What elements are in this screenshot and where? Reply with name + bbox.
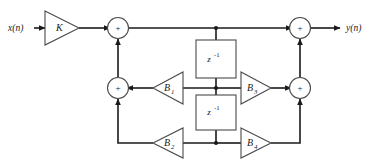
gain-b3-subscript: 3	[253, 88, 258, 95]
gain-triangle-b2: B 2	[153, 128, 183, 158]
wire-gain-b4-to-sum-bottom-right	[271, 99, 300, 143]
adder-plus-symbol: +	[297, 83, 302, 93]
adder-plus-symbol: +	[115, 23, 120, 33]
gain-b2-subscript: 2	[171, 143, 175, 150]
gain-triangle-k: K	[45, 11, 79, 45]
gain-b4-label: B	[247, 137, 253, 148]
input-signal-label: x(n)	[7, 23, 23, 34]
adder-plus-symbol: +	[297, 23, 302, 33]
junction-tap-middle	[214, 86, 218, 90]
gain-b3-label: B	[247, 82, 253, 93]
gain-b1-label: B	[164, 82, 170, 93]
gain-b1-subscript: 1	[171, 88, 174, 95]
delay-exponent-label: -1	[214, 51, 220, 58]
gain-b4-subscript: 4	[254, 143, 258, 150]
delay-base-label: z	[206, 54, 211, 64]
delay-exponent-label: -1	[214, 104, 220, 111]
adder-sum-bottom-left: +	[108, 78, 129, 99]
junction-tap-top	[214, 26, 218, 30]
signal-flow-diagram: + + + + z -1 z -1 K	[0, 0, 378, 167]
delay-block-lower: z -1	[196, 95, 236, 130]
diagram-canvas: + + + + z -1 z -1 K	[0, 0, 378, 167]
adder-plus-symbol: +	[115, 83, 120, 93]
delay-base-label: z	[206, 107, 211, 117]
junction-tap-bottom	[214, 141, 218, 145]
adder-sum-top-left: +	[108, 18, 129, 39]
gain-b2-label: B	[164, 137, 170, 148]
gain-triangle-b1: B 1	[153, 72, 183, 104]
gain-triangle-b3: B 3	[241, 72, 271, 104]
gain-k-label: K	[55, 22, 64, 33]
adder-sum-bottom-right: +	[290, 78, 311, 99]
adder-sum-top-right: +	[290, 18, 311, 39]
gain-triangle-b4: B 4	[241, 128, 271, 158]
delay-block-upper: z -1	[196, 40, 236, 78]
output-signal-label: y(n)	[345, 23, 361, 34]
wire-gain-b2-to-sum-bottom-left	[118, 99, 153, 143]
